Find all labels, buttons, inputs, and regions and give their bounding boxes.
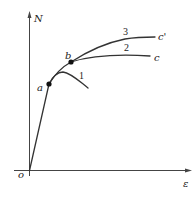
origin-label: o bbox=[18, 169, 24, 180]
y-axis bbox=[28, 11, 32, 176]
curve-2 bbox=[71, 55, 150, 62]
point-c-prime-label: c' bbox=[158, 31, 166, 42]
point-a-marker bbox=[46, 81, 51, 86]
point-b-label: b bbox=[65, 50, 71, 61]
y-axis-arrow-icon bbox=[28, 11, 32, 18]
curve-2-label: 2 bbox=[124, 42, 129, 53]
curve-1-label: 1 bbox=[79, 70, 84, 81]
point-c-label: c bbox=[154, 52, 160, 63]
x-axis-label: ε bbox=[183, 178, 188, 189]
x-axis bbox=[14, 169, 192, 173]
load-strain-diagram: N ε o a b c c' 1 2 3 bbox=[0, 0, 193, 197]
elastic-segment bbox=[30, 84, 50, 171]
x-axis-arrow-icon bbox=[185, 169, 192, 173]
y-axis-label: N bbox=[33, 13, 44, 24]
curve-3-label: 3 bbox=[123, 26, 128, 37]
point-a-label: a bbox=[37, 82, 43, 93]
